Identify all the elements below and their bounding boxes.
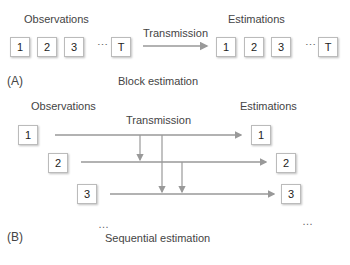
arrows-layer (0, 0, 350, 265)
